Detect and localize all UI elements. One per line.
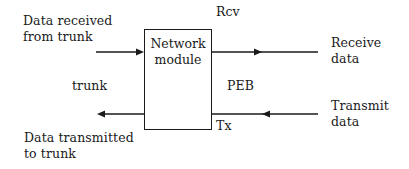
data-received-line1: Data received [23, 13, 112, 29]
data-received-line2: from trunk [23, 29, 112, 45]
data-transmitted-label: Data transmitted to trunk [24, 130, 134, 162]
receive-data-line2: data [331, 51, 381, 67]
transmit-data-line1: Transmit [331, 98, 389, 114]
transmit-data-label: Transmit data [331, 98, 389, 130]
arrow-trunk-out [97, 111, 144, 118]
data-received-label: Data received from trunk [23, 13, 112, 45]
arrow-trunk-in [96, 49, 144, 56]
arrow-transmit-in [211, 111, 318, 118]
network-module-diagram: Network module Data received from trunk … [0, 0, 409, 169]
data-transmitted-line2: to trunk [24, 146, 134, 162]
tx-label: Tx [216, 118, 232, 134]
data-transmitted-line1: Data transmitted [24, 130, 134, 146]
arrow-receive-out [211, 49, 318, 56]
receive-data-line1: Receive [331, 35, 381, 51]
rcv-label: Rcv [216, 4, 240, 20]
network-module-label: Network module [145, 36, 211, 68]
module-label-line1: Network [145, 36, 211, 52]
peb-label: PEB [227, 78, 254, 94]
network-module-box: Network module [144, 29, 212, 130]
transmit-data-line2: data [331, 114, 389, 130]
receive-data-label: Receive data [331, 35, 381, 67]
module-label-line2: module [145, 52, 211, 68]
trunk-label: trunk [72, 78, 107, 94]
